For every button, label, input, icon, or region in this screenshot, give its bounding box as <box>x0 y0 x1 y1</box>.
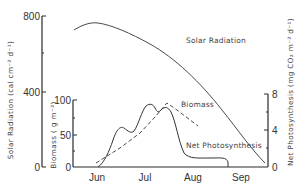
netps-axis-title: Net Photosynthesis (mg CO₂ m⁻² d⁻¹) <box>286 18 295 166</box>
biomass-axis-title: Biomass ( g m⁻²) <box>49 101 58 168</box>
tick-label: 50 <box>60 130 72 141</box>
month-label: Jul <box>139 172 152 183</box>
biomass-axis: 100 50 0 Biomass ( g m⁻²) <box>49 95 77 173</box>
time-axis: Jun Jul Aug Sep <box>73 167 268 183</box>
tick-label: 0 <box>272 162 278 173</box>
net-photosynthesis-label: Net Photosynthesis <box>186 141 262 150</box>
tick-label: 8 <box>272 89 278 100</box>
solar-axis-title: Solar Radiation (cal cm⁻² d⁻¹) <box>6 41 15 159</box>
solar-radiation-axis: 800 400 0 Solar Radiation (cal cm⁻² d⁻¹) <box>6 11 46 173</box>
tick-label: 0 <box>65 162 71 173</box>
month-label: Jun <box>89 172 105 183</box>
tick-label: 800 <box>23 11 40 22</box>
biomass-label: Biomass <box>181 100 214 109</box>
net-photosynthesis-line <box>98 104 228 167</box>
net-photosynthesis-axis: 8 4 0 Net Photosynthesis (mg CO₂ m⁻² d⁻¹… <box>264 18 295 173</box>
tick-label: 0 <box>34 162 40 173</box>
month-label: Aug <box>184 172 202 183</box>
tick-label: 400 <box>23 87 40 98</box>
tick-label: 4 <box>272 125 278 136</box>
solar-radiation-label: Solar Radiation <box>186 36 246 45</box>
month-label: Sep <box>232 172 250 183</box>
chart: 800 400 0 Solar Radiation (cal cm⁻² d⁻¹)… <box>0 0 299 185</box>
biomass-line <box>96 103 198 163</box>
